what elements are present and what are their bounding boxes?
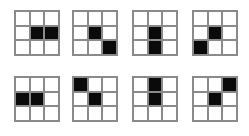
figure-4 xyxy=(192,10,238,56)
cell-r1-c3-filled xyxy=(223,78,236,91)
figure-7 xyxy=(132,76,178,122)
cell-r1-c3-empty xyxy=(45,12,58,25)
cell-r1-c3-empty xyxy=(163,78,176,91)
cell-r1-c2-empty xyxy=(31,12,44,25)
cell-r1-c3-empty xyxy=(103,12,116,25)
cell-r2-c3-empty xyxy=(103,93,116,106)
cell-r2-c1-empty xyxy=(74,93,87,106)
figure-5 xyxy=(14,76,60,122)
pattern-board xyxy=(0,0,249,136)
cell-r3-c3-empty xyxy=(163,41,176,54)
cell-r3-c1-empty xyxy=(134,107,147,120)
cell-r2-c3-empty xyxy=(223,27,236,40)
cell-r2-c1-empty xyxy=(194,27,207,40)
cell-r2-c1-empty xyxy=(74,27,87,40)
cell-r2-c3-empty xyxy=(163,93,176,106)
cell-r3-c3-empty xyxy=(163,107,176,120)
cell-r3-c2-empty xyxy=(89,107,102,120)
cell-r3-c2-empty xyxy=(31,107,44,120)
cell-r3-c3-empty xyxy=(223,41,236,54)
cell-r2-c1-empty xyxy=(134,93,147,106)
cell-r1-c1-empty xyxy=(194,78,207,91)
cell-r3-c1-empty xyxy=(16,41,29,54)
cell-r2-c2-filled xyxy=(89,27,102,40)
cell-r3-c1-empty xyxy=(134,41,147,54)
cell-r1-c1-filled xyxy=(74,78,87,91)
cell-r1-c1-empty xyxy=(16,78,29,91)
cell-r1-c1-empty xyxy=(194,12,207,25)
cell-r1-c2-empty xyxy=(209,12,222,25)
cell-r2-c2-filled xyxy=(31,93,44,106)
cell-r3-c3-filled xyxy=(103,41,116,54)
cell-r3-c2-empty xyxy=(31,41,44,54)
cell-r1-c2-empty xyxy=(209,78,222,91)
cell-r1-c3-empty xyxy=(45,78,58,91)
cell-r3-c2-empty xyxy=(209,107,222,120)
cell-r3-c1-empty xyxy=(16,107,29,120)
cell-r3-c2-empty xyxy=(149,107,162,120)
cell-r1-c2-empty xyxy=(89,78,102,91)
figure-2 xyxy=(72,10,118,56)
cell-r3-c1-empty xyxy=(74,41,87,54)
cell-r2-c3-empty xyxy=(163,27,176,40)
cell-r1-c1-empty xyxy=(74,12,87,25)
figure-8 xyxy=(192,76,238,122)
cell-r2-c2-filled xyxy=(89,93,102,106)
cell-r2-c1-empty xyxy=(194,93,207,106)
cell-r1-c3-empty xyxy=(223,12,236,25)
cell-r2-c3-empty xyxy=(45,93,58,106)
cell-r3-c1-filled xyxy=(194,41,207,54)
cell-r2-c3-empty xyxy=(223,93,236,106)
cell-r1-c3-empty xyxy=(163,12,176,25)
cell-r2-c3-filled xyxy=(45,27,58,40)
cell-r1-c2-filled xyxy=(149,78,162,91)
cell-r3-c3-empty xyxy=(103,107,116,120)
figure-6 xyxy=(72,76,118,122)
cell-r1-c1-empty xyxy=(134,78,147,91)
cell-r1-c1-empty xyxy=(134,12,147,25)
cell-r3-c3-empty xyxy=(45,107,58,120)
cell-r2-c1-filled xyxy=(16,93,29,106)
cell-r2-c2-filled xyxy=(149,27,162,40)
cell-r1-c1-empty xyxy=(16,12,29,25)
cell-r1-c2-empty xyxy=(89,12,102,25)
cell-r1-c2-empty xyxy=(149,12,162,25)
cell-r2-c1-empty xyxy=(134,27,147,40)
cell-r2-c3-empty xyxy=(103,27,116,40)
cell-r2-c2-filled xyxy=(31,27,44,40)
cell-r3-c3-empty xyxy=(45,41,58,54)
cell-r2-c2-filled xyxy=(209,27,222,40)
cell-r2-c2-filled xyxy=(209,93,222,106)
cell-r2-c1-empty xyxy=(16,27,29,40)
cell-r3-c2-empty xyxy=(89,41,102,54)
figure-3 xyxy=(132,10,178,56)
cell-r3-c1-empty xyxy=(74,107,87,120)
cell-r3-c2-filled xyxy=(149,41,162,54)
cell-r3-c2-empty xyxy=(209,41,222,54)
cell-r3-c1-empty xyxy=(194,107,207,120)
figure-1 xyxy=(14,10,60,56)
cell-r1-c2-empty xyxy=(31,78,44,91)
cell-r1-c3-empty xyxy=(103,78,116,91)
cell-r2-c2-filled xyxy=(149,93,162,106)
cell-r3-c3-empty xyxy=(223,107,236,120)
